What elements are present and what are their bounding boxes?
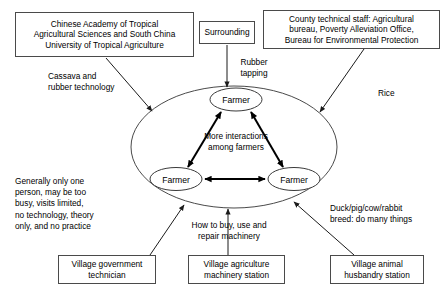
edge-label-interactions: More interactions among farmers bbox=[178, 131, 294, 153]
box-line: County technical staff: Agricultural bbox=[285, 14, 419, 25]
box-line: University of Tropical Agriculture bbox=[34, 40, 176, 51]
box-surrounding[interactable]: Surrounding bbox=[199, 21, 255, 44]
edge-county-to-community bbox=[320, 49, 364, 112]
box-line: Surrounding bbox=[204, 27, 249, 38]
diagram-canvas: Chinese Academy of Tropical Agricultural… bbox=[0, 0, 448, 297]
edge-label-cassava-rubber: Cassava and rubber technology bbox=[48, 71, 158, 93]
box-line: technician bbox=[72, 270, 143, 281]
box-village-husbandry-station[interactable]: Village animal husbandry station bbox=[330, 255, 424, 284]
farmer-right-ellipse[interactable] bbox=[268, 168, 320, 191]
box-village-government-technician[interactable]: Village government technician bbox=[58, 255, 156, 284]
farmer-left-ellipse[interactable] bbox=[150, 168, 202, 191]
box-line: Village agriculture bbox=[204, 259, 270, 270]
box-county-staff[interactable]: County technical staff: Agricultural bur… bbox=[263, 10, 440, 49]
box-line: bureau, Poverty Alleviation Office, bbox=[285, 24, 419, 35]
box-line: Village animal bbox=[344, 259, 410, 270]
edge-label-machinery-note: How to buy, use and repair machinery bbox=[170, 220, 288, 242]
box-line: Chinese Academy of Tropical bbox=[34, 19, 176, 30]
edge-label-rubber-tapping: Rubber tapping bbox=[232, 57, 276, 79]
box-line: husbandry station bbox=[344, 270, 410, 281]
box-line: machinery station bbox=[204, 270, 270, 281]
edge-label-technician-note: Generally only one person, may be too bu… bbox=[15, 176, 125, 232]
box-line: Bureau for Environmental Protection bbox=[285, 35, 419, 46]
edge-label-rice: Rice bbox=[378, 88, 418, 99]
box-village-machinery-station[interactable]: Village agriculture machinery station bbox=[188, 255, 285, 284]
box-tropical-academy[interactable]: Chinese Academy of Tropical Agricultural… bbox=[15, 12, 194, 57]
edge-label-husbandry-note: Duck/pig/cow/rabbit breed: do many thing… bbox=[330, 203, 442, 225]
box-line: Agricultural Sciences and South China bbox=[34, 29, 176, 40]
box-line: Village government bbox=[72, 259, 143, 270]
farmer-top-ellipse[interactable] bbox=[210, 88, 262, 111]
